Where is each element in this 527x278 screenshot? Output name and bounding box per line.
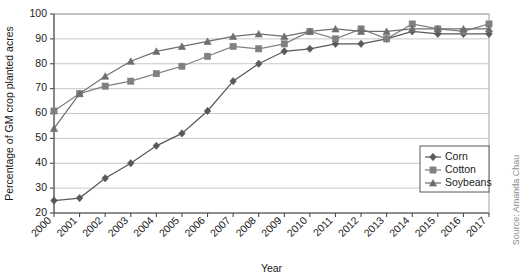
data-point-square bbox=[256, 46, 262, 52]
data-point-diamond bbox=[281, 48, 288, 55]
data-point-square bbox=[102, 83, 108, 89]
data-point-square bbox=[179, 63, 185, 69]
x-axis-tick-label: 2014 bbox=[387, 214, 412, 239]
data-point-square bbox=[128, 78, 134, 84]
x-axis-tick-label: 2006 bbox=[182, 214, 207, 239]
data-point-diamond bbox=[153, 142, 160, 149]
x-axis-tick-label: 2001 bbox=[54, 214, 79, 239]
x-axis-tick-label: 2005 bbox=[156, 214, 181, 239]
x-axis-tick-label: 2012 bbox=[335, 214, 360, 239]
data-point-diamond bbox=[51, 197, 58, 204]
y-axis-tick-label: 30 bbox=[35, 181, 47, 193]
y-axis-tick-label: 60 bbox=[35, 106, 47, 118]
y-axis-tick-label: 80 bbox=[35, 57, 47, 69]
x-axis-tick-label: 2000 bbox=[28, 214, 53, 239]
y-axis-tick-label: 50 bbox=[35, 131, 47, 143]
data-point-square bbox=[153, 71, 159, 77]
y-axis-tick-label: 100 bbox=[29, 7, 47, 19]
data-point-square bbox=[384, 36, 390, 42]
chart-legend: CornCottonSoybeans bbox=[420, 146, 492, 192]
data-point-diamond bbox=[358, 40, 365, 47]
x-axis-tick-label: 2004 bbox=[131, 214, 156, 239]
chart-figure: 2030405060708090100200020012002200320042… bbox=[0, 0, 527, 278]
y-axis-tick-label: 90 bbox=[35, 32, 47, 44]
x-axis-ticks: 2000200120022003200420052006200720082009… bbox=[28, 213, 489, 239]
x-axis-tick-label: 2007 bbox=[208, 214, 233, 239]
data-point-square bbox=[281, 41, 287, 47]
legend-label-corn: Corn bbox=[445, 150, 468, 162]
data-point-square bbox=[51, 108, 57, 114]
x-axis-tick-label: 2010 bbox=[284, 214, 309, 239]
data-point-square bbox=[332, 36, 338, 42]
data-point-square bbox=[430, 167, 436, 173]
x-axis-tick-label: 2009 bbox=[259, 214, 284, 239]
data-point-triangle bbox=[102, 73, 109, 80]
x-axis-tick-label: 2017 bbox=[463, 214, 488, 239]
x-axis-tick-label: 2008 bbox=[233, 214, 258, 239]
x-axis-tick-label: 2003 bbox=[105, 214, 130, 239]
data-point-square bbox=[204, 53, 210, 59]
gm-crop-adoption-line-chart: 2030405060708090100200020012002200320042… bbox=[0, 0, 527, 278]
series-soybeans bbox=[50, 25, 492, 131]
data-point-diamond bbox=[307, 45, 314, 52]
legend-label-soybeans: Soybeans bbox=[445, 176, 492, 188]
x-axis-tick-label: 2013 bbox=[361, 214, 386, 239]
source-credit: Source: Amanda Chau bbox=[511, 155, 521, 246]
data-point-diamond bbox=[127, 160, 134, 167]
legend-label-cotton: Cotton bbox=[445, 163, 476, 175]
x-axis-tick-label: 2011 bbox=[310, 214, 335, 239]
x-axis-tick-label: 2016 bbox=[438, 214, 463, 239]
x-axis-tick-label: 2002 bbox=[80, 214, 105, 239]
data-point-diamond bbox=[255, 60, 262, 67]
x-axis-title: Year bbox=[261, 262, 283, 274]
y-axis-title: Percentage of GM crop planted acres bbox=[3, 26, 15, 201]
data-point-triangle bbox=[127, 58, 134, 65]
data-point-square bbox=[230, 43, 236, 49]
y-axis-tick-label: 70 bbox=[35, 81, 47, 93]
y-axis-tick-label: 40 bbox=[35, 156, 47, 168]
x-axis-tick-label: 2015 bbox=[412, 214, 437, 239]
